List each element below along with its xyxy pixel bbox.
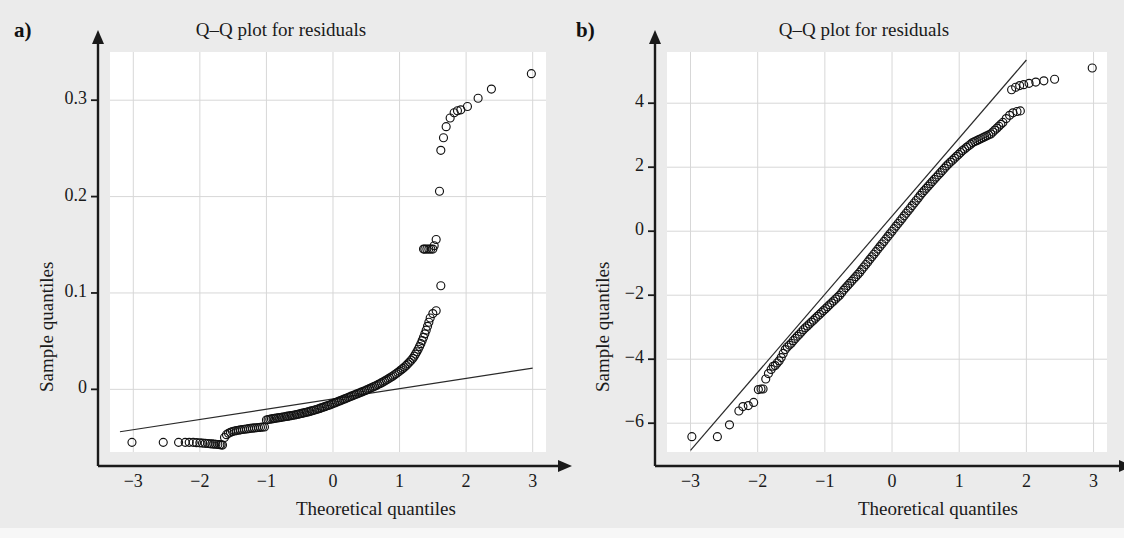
x-tick-label: 3 (519, 471, 547, 492)
x-tick-label: −1 (252, 471, 280, 492)
x-tick-label: 0 (319, 471, 347, 492)
x-axis-label-b: Theoretical quantiles (858, 498, 1018, 520)
x-tick-label: 1 (386, 471, 414, 492)
qq-plot-b (562, 0, 1124, 538)
panel-a: a) Q–Q plot for residuals Sample quantil… (0, 0, 562, 538)
figure-container: a) Q–Q plot for residuals Sample quantil… (0, 0, 1124, 538)
x-tick-label: 2 (1012, 471, 1040, 492)
y-tick-label: 2 (635, 155, 644, 176)
y-tick-label: −6 (625, 411, 644, 432)
y-tick-label: 4 (635, 91, 644, 112)
x-tick-label: −1 (811, 471, 839, 492)
y-tick-label: −2 (625, 283, 644, 304)
x-tick-label: 1 (945, 471, 973, 492)
x-tick-label: −2 (186, 471, 214, 492)
y-tick-label: 0 (78, 377, 87, 398)
x-tick-label: −3 (677, 471, 705, 492)
x-tick-label: 2 (452, 471, 480, 492)
page-bottom-edge (0, 528, 1124, 538)
panel-b: b) Q–Q plot for residuals Sample quantil… (562, 0, 1124, 538)
y-axis-label-b: Sample quantiles (592, 262, 614, 392)
x-axis-label-a: Theoretical quantiles (296, 498, 456, 520)
qq-plot-a (0, 0, 562, 538)
x-tick-label: −3 (119, 471, 147, 492)
x-tick-label: 3 (1080, 471, 1108, 492)
y-axis-label-a: Sample quantiles (36, 262, 58, 392)
x-tick-label: −2 (744, 471, 772, 492)
y-tick-label: 0.3 (65, 88, 88, 109)
y-tick-label: 0.1 (65, 281, 88, 302)
y-tick-label: 0.2 (65, 185, 88, 206)
x-tick-label: 0 (878, 471, 906, 492)
y-tick-label: 0 (635, 219, 644, 240)
y-tick-label: −4 (625, 347, 644, 368)
